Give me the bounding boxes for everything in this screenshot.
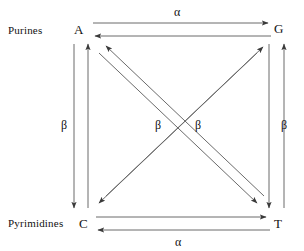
node-label-g: G <box>274 22 283 35</box>
node-label-t: T <box>274 217 282 230</box>
rate-label-alpha-bottom: α <box>175 236 181 248</box>
rate-label-beta-right: β <box>281 119 287 131</box>
transition-transversion-graph <box>0 0 304 251</box>
group-label-purines: Purines <box>8 25 42 36</box>
diagram-canvas: Purines Pyrimidines A G C T α α β β β β <box>0 0 304 251</box>
rate-label-alpha-top: α <box>174 6 180 18</box>
rate-label-beta-diagonal-right: β <box>195 119 201 131</box>
rate-label-beta-diagonal-left: β <box>155 119 161 131</box>
node-label-c: C <box>79 217 88 230</box>
rate-label-beta-left: β <box>61 119 67 131</box>
node-label-a: A <box>74 23 83 36</box>
group-label-pyrimidines: Pyrimidines <box>8 218 63 229</box>
edge-c-to-g <box>106 47 263 196</box>
